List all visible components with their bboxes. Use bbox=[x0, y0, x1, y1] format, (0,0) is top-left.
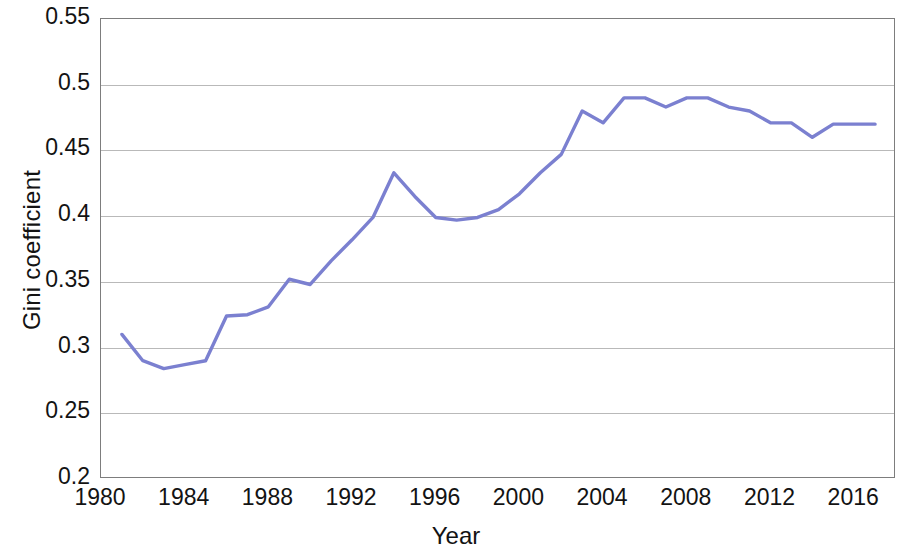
y-tick-label: 0.5 bbox=[0, 69, 90, 96]
series-polyline bbox=[122, 98, 875, 369]
x-tick-label: 2008 bbox=[641, 484, 731, 511]
x-tick-label: 1980 bbox=[55, 484, 145, 511]
data-series-line bbox=[101, 19, 896, 479]
x-tick-label: 2000 bbox=[473, 484, 563, 511]
gini-coefficient-line-chart: Gini coefficient 0.20.250.30.350.40.450.… bbox=[0, 0, 912, 554]
x-tick-label: 1984 bbox=[139, 484, 229, 511]
x-tick-label: 1992 bbox=[306, 484, 396, 511]
x-tick-label: 2012 bbox=[725, 484, 815, 511]
x-tick-label: 1988 bbox=[222, 484, 312, 511]
x-axis-title: Year bbox=[0, 522, 912, 550]
x-tick-label: 2016 bbox=[808, 484, 898, 511]
y-tick-label: 0.55 bbox=[0, 3, 90, 30]
plot-area bbox=[100, 18, 895, 478]
x-tick-label: 2004 bbox=[557, 484, 647, 511]
x-tick-label: 1996 bbox=[390, 484, 480, 511]
y-tick-label: 0.25 bbox=[0, 397, 90, 424]
y-axis-title: Gini coefficient bbox=[18, 100, 46, 400]
